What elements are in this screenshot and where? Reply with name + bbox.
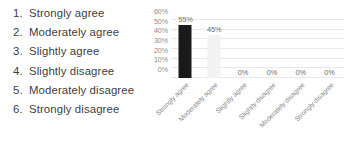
y-axis-tick-label: 40%	[154, 26, 168, 35]
bar-group[interactable]: 55%Strongly agree	[171, 20, 200, 78]
y-axis-tick-label: 50%	[154, 16, 168, 25]
y-axis-tick-label: 20%	[154, 45, 168, 54]
y-axis-tick-label: 30%	[154, 36, 168, 45]
plot-area: 60%50%40%30%20%10%0%55%Strongly agree45%…	[171, 20, 344, 78]
list-item-number: 3.	[13, 45, 29, 57]
list-item-number: 4.	[13, 65, 29, 77]
list-item: 3. Slightly agree	[13, 45, 153, 64]
list-item-number: 6.	[13, 103, 29, 115]
list-item-number: 5.	[13, 84, 29, 96]
bar[interactable]	[208, 35, 221, 79]
list-item-label: Moderately agree	[29, 26, 153, 38]
y-axis-tick-label: 60%	[154, 7, 168, 16]
bar-value-label: 0%	[238, 68, 248, 77]
slide-canvas: 1. Strongly agree 2. Moderately agree 3.…	[0, 0, 350, 143]
bar-value-label: 0%	[324, 68, 334, 77]
bar-group[interactable]: 0%Slightly disagree	[258, 20, 287, 78]
list-item-label: Strongly disagree	[29, 103, 153, 115]
list-item-label: Slightly disagree	[29, 65, 153, 77]
list-item: 5. Moderately disagree	[13, 84, 153, 103]
list-item: 4. Slightly disagree	[13, 65, 153, 84]
bar-chart: 60%50%40%30%20%10%0%55%Strongly agree45%…	[149, 4, 350, 143]
list-item-number: 2.	[13, 26, 29, 38]
likert-scale-list: 1. Strongly agree 2. Moderately agree 3.…	[13, 7, 153, 122]
list-item-label: Slightly agree	[29, 45, 153, 57]
bar-group[interactable]: 0%Moderately disagree	[286, 20, 315, 78]
bar-group[interactable]: 0%Strongly disagree	[315, 20, 344, 78]
list-item: 6. Strongly disagree	[13, 103, 153, 122]
bar-value-label: 0%	[267, 68, 277, 77]
y-axis-tick-label: 10%	[154, 55, 168, 64]
list-item-label: Strongly agree	[29, 7, 153, 19]
bar-value-label: 55%	[178, 15, 193, 24]
bar[interactable]	[179, 25, 192, 78]
bar-group[interactable]: 45%Moderately agree	[200, 20, 229, 78]
y-axis-tick-label: 0%	[158, 65, 168, 74]
list-item: 2. Moderately agree	[13, 26, 153, 45]
list-item-number: 1.	[13, 7, 29, 19]
bar-value-label: 0%	[295, 68, 305, 77]
bar-group[interactable]: 0%Slightly agree	[229, 20, 258, 78]
list-item-label: Moderately disagree	[29, 84, 153, 96]
list-item: 1. Strongly agree	[13, 7, 153, 26]
bar-value-label: 45%	[207, 25, 222, 34]
